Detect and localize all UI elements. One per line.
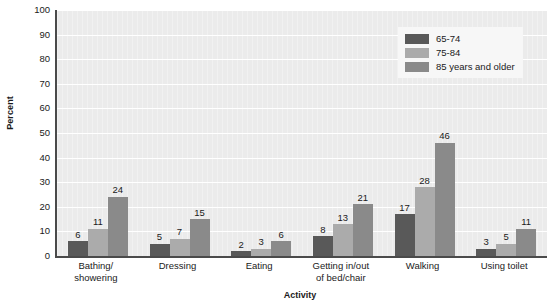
legend-label: 65-74 <box>436 34 460 44</box>
x-axis-category-labels: Bathing/ showeringDressingEatingGetting … <box>55 260 545 292</box>
x-axis-category-label: Walking <box>382 260 464 272</box>
bar: 21 <box>353 204 373 256</box>
y-axis-tick-label: 100 <box>22 5 50 15</box>
y-axis-tick-label: 80 <box>22 54 50 64</box>
bar: 11 <box>88 229 108 256</box>
bar: 8 <box>313 236 333 256</box>
bar: 11 <box>516 229 536 256</box>
bar-group: 81321 <box>313 10 373 256</box>
bar-value-label: 21 <box>358 193 369 203</box>
bar-value-label: 3 <box>484 237 489 247</box>
bar-value-label: 6 <box>279 230 284 240</box>
bar-value-label: 6 <box>75 230 80 240</box>
bar-value-label: 8 <box>320 225 325 235</box>
bar: 7 <box>170 239 190 256</box>
bar-chart: Percent 0102030405060708090100 611245715… <box>0 0 559 306</box>
bar: 5 <box>496 244 516 256</box>
legend-item: 75-84 <box>405 47 515 58</box>
bar: 6 <box>271 241 291 256</box>
y-axis-tick-label: 30 <box>22 177 50 187</box>
gridline <box>57 84 547 85</box>
legend-color-swatch <box>405 34 429 44</box>
x-axis-category-label: Dressing <box>137 260 219 272</box>
bar: 6 <box>68 241 88 256</box>
bar: 17 <box>395 214 415 256</box>
legend-color-swatch <box>405 48 429 58</box>
bar-value-label: 5 <box>157 232 162 242</box>
y-axis-tick-labels: 0102030405060708090100 <box>22 10 50 256</box>
gridline <box>57 158 547 159</box>
gridline <box>57 133 547 134</box>
gridline <box>57 10 547 11</box>
bar-value-label: 11 <box>93 217 103 227</box>
y-axis-tick-label: 70 <box>22 79 50 89</box>
bar-value-label: 2 <box>239 240 244 250</box>
y-axis-title: Percent <box>5 83 15 143</box>
x-axis-category-label: Using toilet <box>463 260 545 272</box>
bar-value-label: 15 <box>194 208 205 218</box>
bar-value-label: 7 <box>177 227 182 237</box>
bar-value-label: 24 <box>113 185 124 195</box>
bar: 28 <box>415 187 435 256</box>
gridline <box>57 182 547 183</box>
y-axis-tick-label: 50 <box>22 128 50 138</box>
bar-value-label: 13 <box>338 213 349 223</box>
bar-value-label: 28 <box>419 176 430 186</box>
bar-group: 5715 <box>150 10 210 256</box>
bar: 13 <box>333 224 353 256</box>
gridline <box>57 207 547 208</box>
gridline <box>57 108 547 109</box>
bar-value-label: 5 <box>504 232 509 242</box>
bar: 3 <box>251 249 271 256</box>
bar-value-label: 46 <box>439 131 450 141</box>
bar-value-label: 3 <box>259 237 264 247</box>
legend: 65-7475-8485 years and older <box>398 27 523 78</box>
y-axis-tick-label: 40 <box>22 153 50 163</box>
legend-label: 85 years and older <box>436 62 515 72</box>
gridline <box>57 231 547 232</box>
x-axis-category-label: Getting in/out of bed/chair <box>300 260 382 283</box>
bar-value-label: 17 <box>399 203 410 213</box>
x-axis-title: Activity <box>55 290 545 300</box>
y-axis-tick-label: 0 <box>22 251 50 261</box>
legend-item: 85 years and older <box>405 61 515 72</box>
y-axis-tick-label: 20 <box>22 202 50 212</box>
bar: 24 <box>108 197 128 256</box>
x-axis-category-label: Eating <box>218 260 300 272</box>
legend-color-swatch <box>405 62 429 72</box>
bar: 3 <box>476 249 496 256</box>
y-axis-tick-label: 10 <box>22 227 50 237</box>
bar: 5 <box>150 244 170 256</box>
legend-item: 65-74 <box>405 33 515 44</box>
bar-group: 61124 <box>68 10 128 256</box>
x-axis-category-label: Bathing/ showering <box>55 260 137 283</box>
bar: 46 <box>435 143 455 256</box>
bar: 2 <box>231 251 251 256</box>
bar: 15 <box>190 219 210 256</box>
y-axis-tick-label: 90 <box>22 30 50 40</box>
bar-group: 236 <box>231 10 291 256</box>
y-axis-tick-label: 60 <box>22 104 50 114</box>
bar-value-label: 11 <box>521 217 531 227</box>
legend-label: 75-84 <box>436 48 460 58</box>
